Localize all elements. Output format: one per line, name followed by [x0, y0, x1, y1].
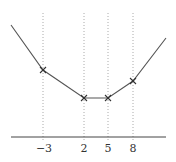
tick-label-8: 8 — [130, 142, 137, 155]
tick-label-neg3: −3 — [36, 142, 52, 155]
tick-label-5: 5 — [105, 142, 112, 155]
tick-label-2: 2 — [81, 142, 88, 155]
tick-labels: −3 2 5 8 — [36, 142, 137, 155]
guide-lines — [43, 13, 133, 141]
piecewise-linear-diagram: −3 2 5 8 — [0, 0, 176, 162]
piecewise-curve — [11, 25, 166, 98]
breakpoint-markers — [40, 67, 136, 101]
x-marker-icon — [130, 78, 136, 84]
